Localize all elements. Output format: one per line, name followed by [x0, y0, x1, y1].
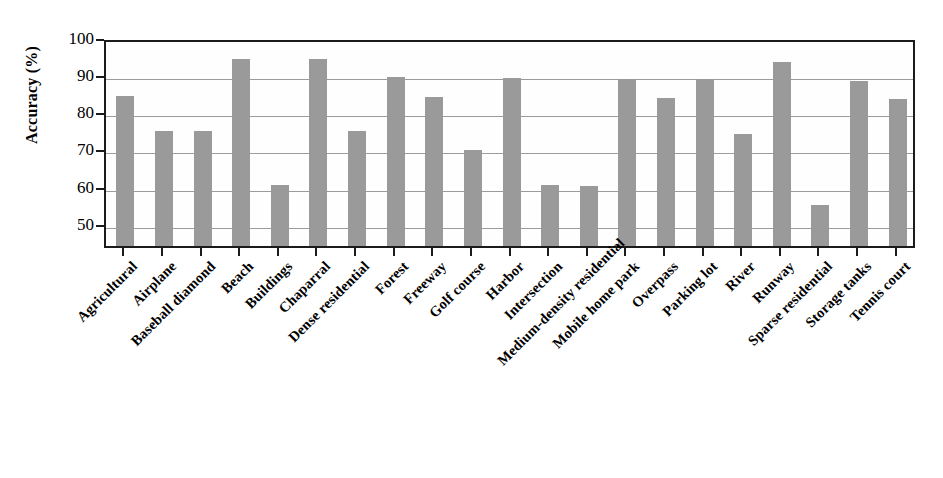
x-axis-tick	[586, 248, 588, 256]
bar	[696, 79, 714, 248]
bar	[889, 99, 907, 248]
x-axis-tick	[470, 248, 472, 256]
bar	[734, 134, 752, 248]
x-axis-tick	[856, 248, 858, 256]
x-axis-tick	[702, 248, 704, 256]
plot-area	[104, 40, 915, 248]
y-axis-tick-label: 60	[48, 178, 94, 198]
y-axis-tick-labels: 5060708090100	[42, 0, 94, 478]
bar	[541, 185, 559, 248]
y-axis-tick-label: 50	[48, 215, 94, 235]
bar	[309, 59, 327, 248]
y-axis-tick	[96, 150, 104, 152]
x-axis-tick	[431, 248, 433, 256]
bar	[464, 150, 482, 248]
x-axis-tick	[817, 248, 819, 256]
x-axis-tick	[161, 248, 163, 256]
x-axis-tick	[509, 248, 511, 256]
bar	[811, 205, 829, 248]
bar	[232, 59, 250, 248]
bar	[773, 62, 791, 248]
bar	[425, 97, 443, 248]
y-axis-tick-label: 80	[48, 103, 94, 123]
bar	[580, 186, 598, 248]
x-axis-tick	[895, 248, 897, 256]
y-axis-tick-label: 90	[48, 66, 94, 86]
x-axis-tick	[315, 248, 317, 256]
bar	[387, 77, 405, 248]
x-axis-tick	[779, 248, 781, 256]
chart-figure: Accuracy (%) 5060708090100 AgriculturalA…	[0, 0, 943, 478]
x-axis-tick	[663, 248, 665, 256]
y-axis-tick-label: 100	[48, 29, 94, 49]
x-axis-tick	[354, 248, 356, 256]
bar	[194, 131, 212, 248]
x-axis-tick	[624, 248, 626, 256]
x-axis-tick	[238, 248, 240, 256]
bar	[503, 78, 521, 248]
y-axis-tick	[96, 188, 104, 190]
bar	[271, 185, 289, 248]
bar	[155, 131, 173, 248]
x-axis-tick	[393, 248, 395, 256]
y-axis-tick-label: 70	[48, 140, 94, 160]
x-axis-tick	[200, 248, 202, 256]
x-axis-tick	[122, 248, 124, 256]
y-axis-title: Accuracy (%)	[23, 15, 41, 175]
y-axis-tick	[96, 225, 104, 227]
bar	[618, 79, 636, 248]
y-axis-tick	[96, 39, 104, 41]
x-axis-tick	[547, 248, 549, 256]
bar	[116, 96, 134, 248]
x-axis-tick	[740, 248, 742, 256]
bar	[850, 81, 868, 248]
bar	[657, 98, 675, 248]
bar	[348, 131, 366, 248]
y-axis-tick	[96, 76, 104, 78]
y-axis-tick	[96, 113, 104, 115]
x-axis-tick	[277, 248, 279, 256]
